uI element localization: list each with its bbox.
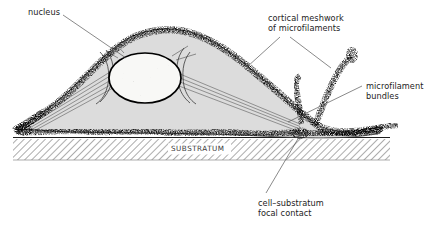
label-substratum-text: SUBSTRATUM [171, 144, 225, 153]
label-microfilament-bundles: microfilamentbundles [366, 81, 423, 101]
label-cortical-meshwork: cortical meshworkof microfilaments [268, 13, 344, 33]
leader-line-cortical-right [290, 37, 331, 68]
label-cortical-meshwork-line2: of microfilaments [268, 23, 340, 33]
leader-line-cortical-left [247, 37, 280, 67]
label-focal-contact: cell–substratumfocal contact [258, 198, 324, 218]
label-microfilament-bundles-line2: bundles [366, 91, 399, 101]
label-focal-contact-line2: focal contact [258, 208, 312, 218]
label-substratum: SUBSTRATUM [171, 144, 225, 153]
focal-contact-right [291, 127, 309, 139]
filopodium-long-core [315, 56, 352, 126]
cell-substratum-diagram: nucleus cortical meshworkof microfilamen… [0, 0, 431, 230]
diagram-canvas [0, 0, 431, 230]
cytoplasm [16, 29, 382, 138]
label-nucleus-text: nucleus [28, 7, 60, 17]
focal-contact-left [15, 124, 33, 136]
label-nucleus: nucleus [28, 7, 60, 17]
nucleus [109, 53, 181, 103]
cell-body [16, 29, 382, 138]
filopodium-tip [346, 47, 358, 63]
leader-line-nucleus [63, 15, 126, 58]
label-cortical-meshwork-line1: cortical meshwork [268, 13, 344, 23]
nucleolus-stipple [141, 67, 167, 81]
label-focal-contact-line1: cell–substratum [258, 198, 324, 208]
label-microfilament-bundles-line1: microfilament [366, 81, 423, 91]
